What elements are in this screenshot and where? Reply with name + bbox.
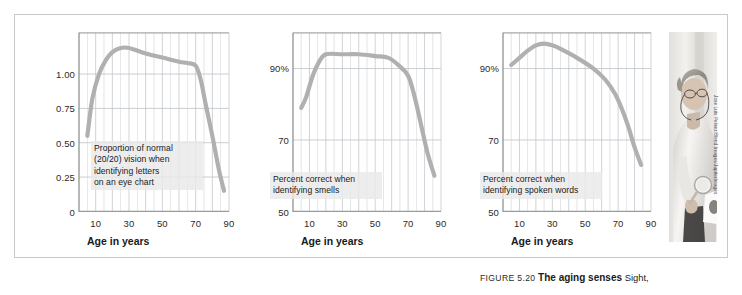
chart-smell: 507090% 1030507090 Age in years Percent … xyxy=(245,15,455,257)
hearing-x-tick-1: 30 xyxy=(538,218,566,229)
hearing-y-tick-1: 70 xyxy=(457,135,499,146)
vision-y-tick-4: 1.00 xyxy=(33,69,75,80)
annotation-hearing: Percent correct when identifying spoken … xyxy=(480,172,602,199)
photo-panel: Jose Luis Pelaez/Blend Images/JupiterIma… xyxy=(669,15,729,257)
smell-x-tick-2: 50 xyxy=(361,218,389,229)
chart-panel-vision: 00.250.500.751.00 1030507090 Age in year… xyxy=(23,15,245,257)
figure-caption-body: Sight, xyxy=(625,272,649,283)
figure-number: FIGURE 5.20 xyxy=(480,273,535,283)
vision-y-tick-3: 0.75 xyxy=(33,103,75,114)
vision-y-tick-0: 0 xyxy=(33,207,75,218)
x-axis-title-smell: Age in years xyxy=(301,235,363,247)
smell-x-tick-0: 10 xyxy=(295,218,323,229)
vision-x-tick-2: 50 xyxy=(148,218,176,229)
charts-row: 00.250.500.751.00 1030507090 Age in year… xyxy=(15,15,727,257)
hearing-x-tick-4: 90 xyxy=(637,218,665,229)
hearing-x-tick-2: 50 xyxy=(571,218,599,229)
figure-caption: FIGURE 5.20 The aging senses Sight, xyxy=(480,272,742,283)
older-woman-with-magnifier-photo xyxy=(669,32,717,242)
chart-panel-hearing: 507090% 1030507090 Age in years Percent … xyxy=(455,15,665,257)
figure-title: The aging senses xyxy=(538,272,622,283)
smell-y-tick-1: 70 xyxy=(247,135,289,146)
vision-x-tick-1: 30 xyxy=(115,218,143,229)
chart-hearing: 507090% 1030507090 Age in years Percent … xyxy=(455,15,665,257)
x-axis-title-vision: Age in years xyxy=(87,235,149,247)
figure-frame: 00.250.500.751.00 1030507090 Age in year… xyxy=(14,14,728,258)
hearing-x-tick-3: 70 xyxy=(604,218,632,229)
hearing-x-tick-0: 10 xyxy=(505,218,533,229)
vision-x-tick-0: 10 xyxy=(82,218,110,229)
annotation-smell: Percent correct when identifying smells xyxy=(270,172,382,199)
smell-y-tick-0: 50 xyxy=(247,207,289,218)
smell-x-tick-4: 90 xyxy=(427,218,455,229)
photo-credit-text: Jose Luis Pelaez/Blend Images/JupiterIma… xyxy=(713,95,718,194)
hearing-y-tick-0: 50 xyxy=(457,207,499,218)
smell-x-tick-1: 30 xyxy=(328,218,356,229)
smell-x-tick-3: 70 xyxy=(394,218,422,229)
chart-vision: 00.250.500.751.00 1030507090 Age in year… xyxy=(23,15,245,257)
vision-y-tick-1: 0.25 xyxy=(33,172,75,183)
photo-illustration xyxy=(669,32,717,242)
smell-y-tick-2: 90% xyxy=(247,63,289,74)
x-axis-title-hearing: Age in years xyxy=(511,235,573,247)
vision-y-tick-2: 0.50 xyxy=(33,138,75,149)
chart-panel-smell: 507090% 1030507090 Age in years Percent … xyxy=(245,15,455,257)
annotation-vision: Proportion of normal (20/20) vision when… xyxy=(91,141,203,190)
vision-x-tick-4: 90 xyxy=(215,218,243,229)
vision-x-tick-3: 70 xyxy=(182,218,210,229)
hearing-y-tick-2: 90% xyxy=(457,63,499,74)
